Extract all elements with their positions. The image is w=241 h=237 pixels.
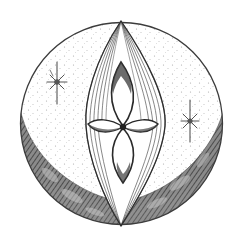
emblem-artwork	[0, 0, 241, 237]
illustration: Engraving-style circular emblem: stipple…	[0, 0, 241, 237]
